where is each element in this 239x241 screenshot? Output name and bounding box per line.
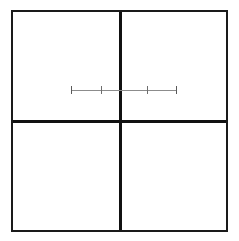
panel-bottom-left[interactable] (13, 124, 120, 230)
panel-grid (11, 10, 228, 232)
figure-root: A square outline divided into four equal… (0, 0, 239, 241)
panel-top-left[interactable] (13, 12, 120, 121)
figure-description: A square outline divided into four equal… (0, 0, 1, 1)
panel-bottom-right[interactable] (123, 124, 226, 230)
panel-top-right[interactable] (123, 12, 226, 121)
